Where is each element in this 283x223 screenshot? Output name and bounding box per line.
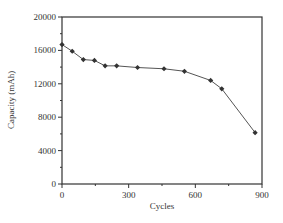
data-point-marker <box>92 58 97 63</box>
x-tick-label: 300 <box>122 190 136 200</box>
data-point-marker <box>114 63 119 68</box>
plot-frame <box>62 17 262 184</box>
data-point-marker <box>135 65 140 70</box>
y-axis: 040008000120001600020000 <box>34 12 63 189</box>
x-tick-label: 600 <box>189 190 203 200</box>
x-axis-title: Cycles <box>150 201 175 211</box>
x-tick-label: 0 <box>60 190 65 200</box>
y-tick-label: 4000 <box>38 146 57 156</box>
y-tick-label: 16000 <box>34 45 57 55</box>
capacity-vs-cycles-chart: 040008000120001600020000 0300600900 Cycl… <box>0 0 283 223</box>
data-point-marker <box>59 42 64 47</box>
y-tick-label: 12000 <box>34 79 57 89</box>
series-line <box>62 45 255 133</box>
y-axis-title: Capacity (mAh) <box>6 71 16 129</box>
data-series <box>59 42 257 135</box>
x-tick-label: 900 <box>255 190 269 200</box>
plot-border <box>62 17 262 184</box>
x-axis: 0300600900 <box>60 184 270 200</box>
y-tick-label: 0 <box>52 179 57 189</box>
y-tick-label: 8000 <box>38 112 57 122</box>
y-tick-label: 20000 <box>34 12 57 22</box>
data-point-marker <box>103 63 108 68</box>
data-point-marker <box>182 69 187 74</box>
data-point-marker <box>161 66 166 71</box>
